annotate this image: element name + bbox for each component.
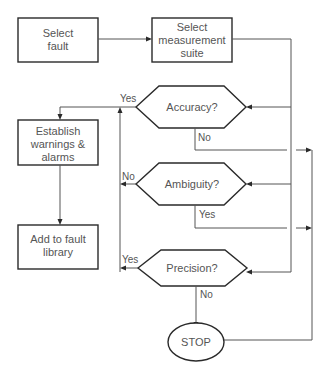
precision-no-label: No	[200, 289, 213, 300]
establish-line2: warnings &	[30, 138, 86, 150]
accuracy-no-label: No	[198, 132, 211, 143]
arrowhead	[58, 114, 63, 120]
select-suite-line2: measurement	[158, 34, 225, 46]
arrowhead	[146, 37, 152, 42]
arrowhead	[58, 219, 63, 225]
precision-decision: Precision?	[138, 250, 247, 286]
select-suite-line3: suite	[180, 47, 203, 59]
ambiguity-yes-label: Yes	[199, 209, 215, 220]
stop-label: STOP	[181, 336, 211, 348]
precision-yes-label: Yes	[122, 254, 138, 265]
arrowhead	[120, 182, 126, 187]
arrowhead	[306, 148, 312, 153]
select-measurement-suite-node: Select measurement suite	[152, 18, 232, 62]
establish-line1: Establish	[36, 125, 81, 137]
suite-right-bus	[232, 39, 291, 272]
select-fault-line2: fault	[48, 40, 69, 52]
precision-label: Precision?	[166, 262, 217, 274]
establish-warnings-node: Establish warnings & alarms	[18, 120, 98, 165]
ambiguity-decision: Ambiguity?	[136, 163, 246, 205]
flowchart-canvas: Select fault Select measurement suite Ac…	[0, 0, 330, 382]
add-library-line1: Add to fault	[30, 233, 86, 245]
connector-accuracy-yes	[60, 107, 136, 116]
accuracy-yes-label: Yes	[120, 93, 136, 104]
accuracy-label: Accuracy?	[166, 101, 217, 113]
add-library-line2: library	[43, 246, 73, 258]
select-fault-node: Select fault	[18, 18, 98, 62]
add-to-fault-library-node: Add to fault library	[18, 225, 98, 269]
arrowhead	[118, 107, 123, 113]
ambiguity-label: Ambiguity?	[165, 178, 219, 190]
select-suite-line1: Select	[177, 21, 208, 33]
establish-line3: alarms	[41, 151, 75, 163]
select-fault-line1: Select	[43, 27, 74, 39]
arrowhead	[120, 266, 126, 271]
arrowhead	[306, 226, 312, 231]
arrowhead	[246, 270, 252, 275]
accuracy-decision: Accuracy?	[136, 86, 246, 128]
stop-terminal: STOP	[168, 323, 224, 361]
ambiguity-no-label: No	[122, 171, 135, 182]
